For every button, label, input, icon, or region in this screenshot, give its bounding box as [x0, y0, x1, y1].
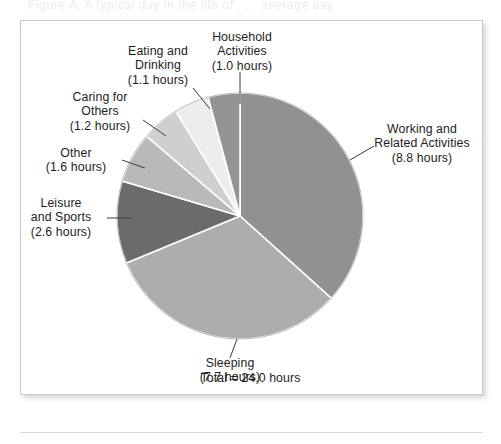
pie-label-eating-and-drinking: Eating and Drinking (1.1 hours)	[112, 44, 204, 87]
pie-slices-group	[117, 93, 363, 339]
pie-label-other: Other (1.6 hours)	[32, 146, 120, 175]
pie-label-household-activities: Household Activities (1.0 hours)	[194, 30, 290, 73]
pie-label-working-and-related-activities: Working and Related Activities (8.8 hour…	[366, 122, 478, 165]
pie-label-leisure-and-sports: Leisure and Sports (2.6 hours)	[16, 196, 106, 239]
pie-label-caring-for-others: Caring for Others (1.2 hours)	[56, 90, 144, 133]
bottom-divider	[20, 432, 483, 433]
pie-total-label: Total = 24.0 hours	[0, 371, 501, 385]
pie-chart: Household Activities (1.0 hours) Eating …	[0, 0, 501, 444]
